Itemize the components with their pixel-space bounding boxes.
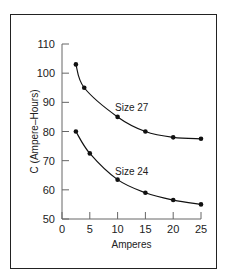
data-point — [171, 135, 176, 140]
data-point — [74, 62, 79, 67]
x-tick-label: 25 — [195, 223, 207, 235]
x-axis-label: Amperes — [111, 239, 151, 250]
y-tick-label: 100 — [37, 67, 55, 79]
y-tick-label: 70 — [43, 155, 55, 167]
x-tick-label: 20 — [167, 223, 179, 235]
data-point — [82, 85, 87, 90]
data-point — [88, 151, 93, 156]
y-tick-label: 90 — [43, 96, 55, 108]
data-point — [74, 129, 79, 134]
data-point — [199, 136, 204, 141]
data-point — [143, 190, 148, 195]
data-point — [143, 129, 148, 134]
x-tick-label: 10 — [111, 223, 123, 235]
y-axis-label: C (Ampere–Hours) — [29, 90, 40, 174]
chart-plot: 50607080901001100510152025AmperesC (Ampe… — [0, 0, 227, 277]
series-label: Size 27 — [115, 102, 149, 113]
data-point — [115, 115, 120, 120]
series-label: Size 24 — [115, 166, 149, 177]
data-point — [171, 198, 176, 203]
data-point — [199, 202, 204, 207]
x-tick-label: 5 — [87, 223, 93, 235]
data-point — [115, 177, 120, 182]
x-tick-label: 0 — [59, 223, 65, 235]
y-tick-label: 80 — [43, 126, 55, 138]
y-tick-label: 110 — [37, 38, 55, 50]
x-tick-label: 15 — [139, 223, 151, 235]
y-tick-label: 60 — [43, 184, 55, 196]
y-tick-label: 50 — [43, 213, 55, 225]
